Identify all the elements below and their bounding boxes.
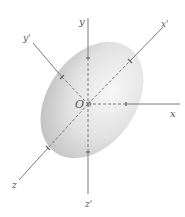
y-axis-label: y — [78, 16, 85, 27]
x-prime-axis-line — [130, 27, 163, 61]
diagram-canvas: O y x x' y' z z' — [0, 0, 185, 217]
x-axis-label: x — [170, 108, 176, 119]
x-prime-axis-label: x' — [161, 19, 169, 29]
y-prime-axis-label: y' — [22, 33, 31, 43]
y-prime-axis-line — [33, 43, 62, 77]
z-axis-line — [19, 148, 48, 180]
z-axis-label: z — [11, 180, 17, 190]
origin-label: O — [75, 98, 84, 111]
z-prime-axis-label: z' — [84, 199, 92, 209]
